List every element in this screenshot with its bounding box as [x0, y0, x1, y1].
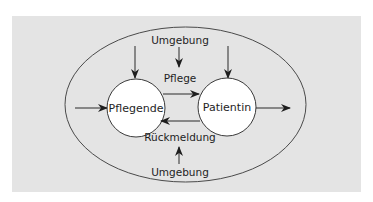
- node-patientin: Patientin: [198, 78, 256, 136]
- nursing-interaction-diagram: Umgebung Pflege Pflegende Patientin Rück…: [0, 0, 373, 202]
- label-care: Pflege: [164, 72, 197, 84]
- environment-boundary-ellipse: [65, 27, 306, 182]
- label-environment-bottom: Umgebung: [151, 166, 209, 178]
- node-pflegende: Pflegende: [107, 79, 165, 137]
- label-feedback: Rückmeldung: [144, 131, 216, 143]
- node-patientin-label: Patientin: [203, 101, 251, 114]
- node-pflegende-label: Pflegende: [109, 102, 164, 115]
- label-environment-top: Umgebung: [151, 34, 209, 46]
